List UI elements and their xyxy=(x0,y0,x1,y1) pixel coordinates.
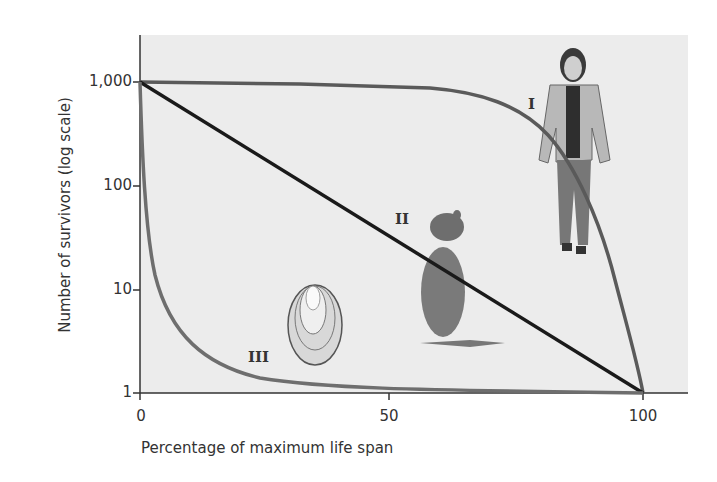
curve-label-II: II xyxy=(395,210,409,228)
x-tick-50: 50 xyxy=(379,407,398,425)
x-tick-100: 100 xyxy=(629,407,658,425)
curve-label-III: III xyxy=(248,348,269,366)
curve-label-I: I xyxy=(528,95,535,113)
x-axis-label: Percentage of maximum life span xyxy=(141,439,393,457)
y-tick-10: 10 xyxy=(113,280,132,298)
oyster-illustration xyxy=(288,285,342,365)
y-tick-1: 1 xyxy=(122,383,132,401)
x-tick-0: 0 xyxy=(136,407,146,425)
squirrel-illustration xyxy=(420,210,505,347)
y-tick-1000: 1,000 xyxy=(89,72,132,90)
y-axis-label: Number of survivors (log scale) xyxy=(56,97,74,333)
y-tick-100: 100 xyxy=(103,176,132,194)
human-illustration xyxy=(539,48,610,254)
